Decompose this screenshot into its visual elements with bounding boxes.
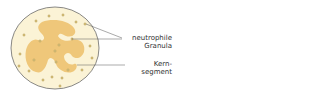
label-line: Kern- (141, 60, 172, 68)
label-line: segment (141, 68, 172, 76)
label-neutrophile-granula: neutrophile Granula (132, 34, 172, 50)
label-line: Granula (132, 42, 172, 50)
label-line: neutrophile (132, 34, 172, 42)
label-kernsegment: Kern- segment (141, 60, 172, 76)
